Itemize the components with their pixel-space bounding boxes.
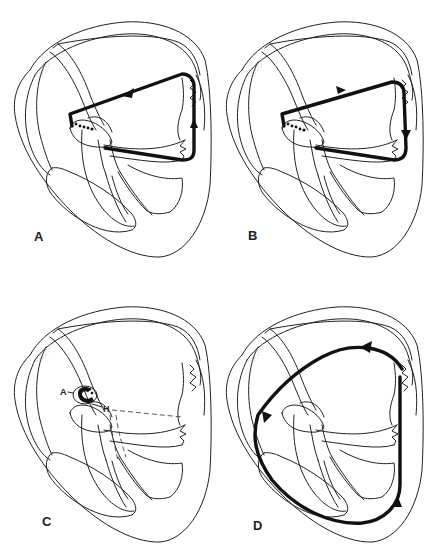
dashed-conduction-path (112, 410, 182, 417)
panel-c: A H (14, 307, 211, 542)
his-bundle-label: H (103, 404, 110, 414)
panel-d (226, 307, 423, 542)
panel-a (14, 22, 211, 257)
panel-label-b: B (248, 228, 257, 243)
reentry-circuit-a (70, 74, 194, 160)
panel-label-a: A (34, 229, 43, 244)
panel-label-c: C (42, 514, 51, 529)
heart-diagram-figure: A H (0, 0, 440, 558)
av-node-dots (75, 123, 94, 131)
atrial-node-label: A (60, 387, 67, 397)
arrow-left-icon (360, 341, 372, 353)
panel-b (226, 22, 423, 257)
arrow-right-icon (336, 86, 346, 94)
macroreentry-circuit-d (255, 347, 402, 523)
panel-label-d: D (253, 518, 262, 533)
av-node-dots (287, 123, 306, 132)
arrow-up-icon (190, 118, 198, 128)
arrow-down-left-icon (262, 411, 272, 423)
arrow-down-icon (401, 130, 411, 140)
